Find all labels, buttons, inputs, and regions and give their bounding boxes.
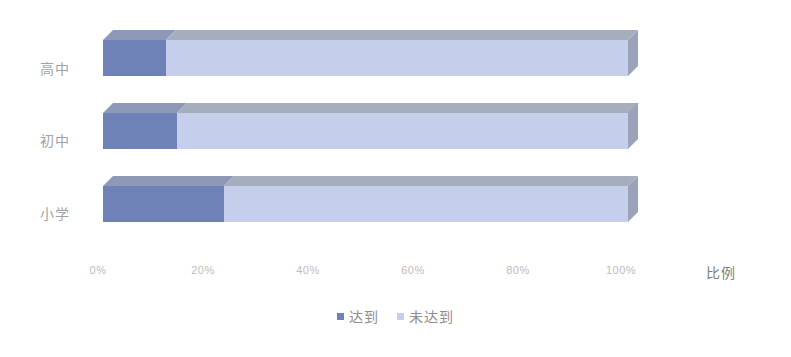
legend: 达到 未达到 [0,306,791,326]
legend-swatch-icon [397,313,404,320]
bar-segment-front-face [103,113,177,149]
bar-segment-top-face [103,30,176,40]
bar-row [103,103,628,149]
bar-row [103,30,628,76]
bar-3d-group [103,103,628,149]
x-tick-100: 100% [599,264,643,276]
legend-label: 未达到 [409,306,454,326]
bar-segment-front-face [166,40,628,76]
stacked-bar-chart: 高中 初中 小学 [0,0,791,357]
bar-segment-front-face [177,113,629,149]
bar-3d-group [103,176,628,222]
bar-segment-reached[interactable] [103,113,177,149]
bar-segment-reached[interactable] [103,186,224,222]
legend-swatch-icon [337,313,344,320]
x-tick-0: 0% [76,264,120,276]
bar-segment-top-face [166,30,638,40]
legend-item-not-reached[interactable]: 未达到 [397,306,454,326]
bar-segment-reached[interactable] [103,40,166,76]
legend-label: 达到 [349,306,379,326]
category-label-0: 高中 [40,58,96,78]
bar-segment-top-face [103,176,234,186]
bar-segment-not-reached[interactable] [177,113,629,149]
bar-3d-group [103,30,628,76]
bar-segment-front-face [103,40,166,76]
x-tick-40: 40% [286,264,330,276]
bar-segment-top-face [103,103,187,113]
bar-segment-front-face [224,186,628,222]
x-tick-80: 80% [496,264,540,276]
category-label-2: 小学 [40,203,96,223]
x-tick-60: 60% [391,264,435,276]
x-axis-title: 比例 [706,262,736,282]
category-label-1: 初中 [40,130,96,150]
bar-segment-side-face [628,176,638,222]
bar-segment-not-reached[interactable] [166,40,628,76]
bar-segment-not-reached[interactable] [224,186,628,222]
bar-segment-front-face [103,186,224,222]
bar-row [103,176,628,222]
bar-segment-side-face [628,103,638,149]
legend-item-reached[interactable]: 达到 [337,306,379,326]
bar-segment-side-face [628,30,638,76]
bar-segment-top-face [224,176,638,186]
x-tick-20: 20% [181,264,225,276]
bar-segment-top-face [177,103,639,113]
